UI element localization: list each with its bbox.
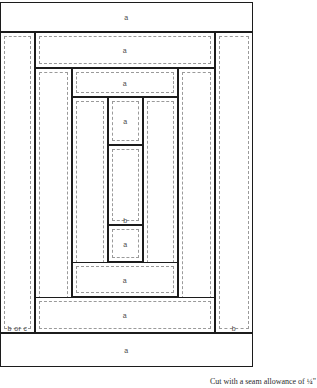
seam-allowance-line bbox=[39, 72, 68, 329]
quilt-piece-right-b-1: b bbox=[215, 32, 253, 333]
quilt-piece-bottom-a-3: a bbox=[72, 262, 178, 297]
seam-allowance-line bbox=[4, 36, 31, 329]
quilt-piece-bottom-a-1: a bbox=[0, 333, 253, 367]
piece-label: a bbox=[73, 79, 177, 86]
piece-label: a bbox=[36, 47, 214, 54]
piece-label: b bbox=[109, 217, 142, 224]
quilt-piece-top-a-2: a bbox=[35, 32, 215, 68]
quilt-piece-bottom-a-4: a bbox=[108, 225, 143, 262]
piece-label: a bbox=[1, 14, 252, 21]
piece-label: a bbox=[36, 312, 214, 319]
piece-label: a bbox=[1, 347, 252, 354]
quilt-piece-left-boc-2: b or c bbox=[35, 68, 72, 333]
quilt-piece-top-a-3: a bbox=[72, 68, 178, 97]
diagram-caption: Cut with a seam allowance of ¼" bbox=[0, 377, 253, 386]
quilt-piece-center-b: b bbox=[108, 145, 143, 225]
piece-label: a bbox=[109, 240, 142, 247]
piece-label: a bbox=[73, 276, 177, 283]
piece-label: b or c bbox=[1, 325, 34, 332]
piece-label: b bbox=[216, 325, 252, 332]
quilt-piece-top-a-4: a bbox=[108, 97, 143, 145]
seam-allowance-line bbox=[219, 36, 249, 329]
quilt-piece-top-a-1: a bbox=[0, 2, 253, 32]
quilt-block-cutting-diagram: ab or cbaab or cbaab or cbaaba bbox=[0, 0, 253, 388]
quilt-piece-left-boc-1: b or c bbox=[0, 32, 35, 333]
quilt-piece-right-b-2: b bbox=[178, 68, 215, 333]
piece-label: a bbox=[109, 118, 142, 125]
quilt-piece-bottom-a-2: a bbox=[35, 297, 215, 333]
seam-allowance-line bbox=[182, 72, 211, 329]
seam-allowance-line bbox=[112, 149, 139, 221]
